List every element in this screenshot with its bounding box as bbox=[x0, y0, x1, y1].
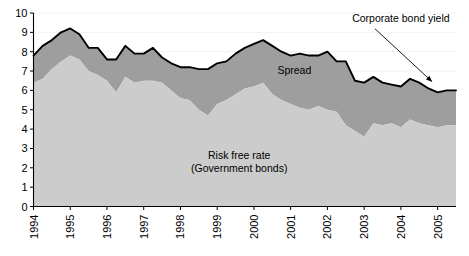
y-tick-label: 5 bbox=[21, 104, 27, 116]
y-tick-label: 1 bbox=[21, 181, 27, 193]
y-tick-label: 9 bbox=[21, 26, 27, 38]
x-tick-label: 2005 bbox=[432, 215, 444, 239]
risk-free-label-line1: Risk free rate bbox=[208, 149, 271, 161]
chart-container: 012345678910 199419951996199719981999200… bbox=[0, 0, 469, 256]
x-tick-label: 2002 bbox=[321, 215, 333, 239]
y-tick-label: 2 bbox=[21, 162, 27, 174]
stacked-areas bbox=[34, 28, 457, 206]
y-tick-label: 8 bbox=[21, 46, 27, 58]
x-tick-label: 2000 bbox=[248, 215, 260, 239]
y-tick-label: 4 bbox=[21, 123, 27, 135]
callout-arrow-line bbox=[375, 29, 432, 82]
area-chart: 012345678910 199419951996199719981999200… bbox=[0, 0, 469, 256]
corporate-bond-yield-annotation-label: Corporate bond yield bbox=[352, 12, 450, 24]
risk-free-label-line2: (Government bonds) bbox=[191, 162, 287, 174]
x-tick-label: 1998 bbox=[174, 215, 186, 239]
x-tick-label: 1996 bbox=[101, 215, 113, 239]
y-axis-ticks: 012345678910 bbox=[15, 7, 33, 213]
y-tick-label: 10 bbox=[15, 7, 27, 19]
x-tick-label: 2001 bbox=[285, 215, 297, 239]
x-tick-label: 1997 bbox=[138, 215, 150, 239]
x-axis-ticks: 1994199519961997199819992000200120022003… bbox=[28, 207, 444, 239]
x-tick-label: 1995 bbox=[64, 215, 76, 239]
y-tick-label: 6 bbox=[21, 84, 27, 96]
y-tick-label: 3 bbox=[21, 142, 27, 154]
spread-label: Spread bbox=[277, 64, 311, 76]
x-tick-label: 2003 bbox=[358, 215, 370, 239]
x-tick-label: 1999 bbox=[211, 215, 223, 239]
x-tick-label: 1994 bbox=[28, 215, 40, 239]
x-tick-label: 2004 bbox=[395, 215, 407, 239]
y-tick-label: 7 bbox=[21, 65, 27, 77]
y-tick-label: 0 bbox=[21, 201, 27, 213]
